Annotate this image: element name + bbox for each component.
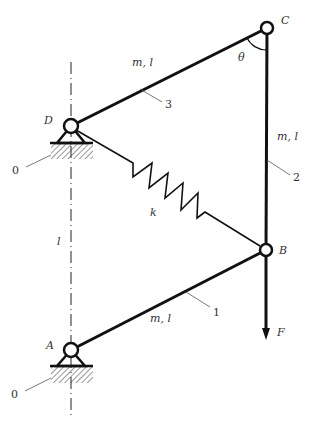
joint-d (64, 119, 78, 133)
angle-arc-theta (247, 38, 267, 50)
point-label-a: A (45, 339, 54, 352)
force-arrow (262, 256, 270, 340)
distance-label-l: l (57, 235, 61, 248)
angle-label-theta: θ (238, 51, 245, 64)
link-2 (266, 28, 267, 250)
link-2-label: m, l (277, 130, 298, 143)
force-label-f: F (276, 326, 285, 339)
link-1-number: 1 (213, 306, 220, 319)
leader-link-1 (186, 292, 210, 307)
link-1 (71, 250, 266, 350)
point-label-c: C (281, 14, 290, 27)
leader-ground-d (26, 155, 51, 167)
link-3 (71, 28, 267, 126)
link-3-label: m, l (132, 56, 153, 69)
joint-a (64, 343, 78, 357)
joint-c (261, 22, 273, 34)
leader-ground-a (25, 378, 51, 391)
ground-label-a: 0 (11, 388, 18, 401)
link-1-label: m, l (150, 312, 171, 325)
ground-label-d: 0 (12, 164, 19, 177)
leader-link-2 (267, 160, 290, 175)
link-3-number: 3 (165, 98, 172, 111)
spring-label-k: k (150, 206, 157, 219)
spring-k (76, 130, 260, 246)
leader-link-3 (140, 89, 162, 102)
point-label-b: B (278, 244, 287, 257)
link-2-number: 2 (293, 171, 300, 184)
point-label-d: D (43, 114, 53, 127)
mechanism-diagram: C D B A m, l m, l m, l 3 2 1 k F θ l 0 0 (0, 0, 314, 428)
joint-b (260, 244, 272, 256)
